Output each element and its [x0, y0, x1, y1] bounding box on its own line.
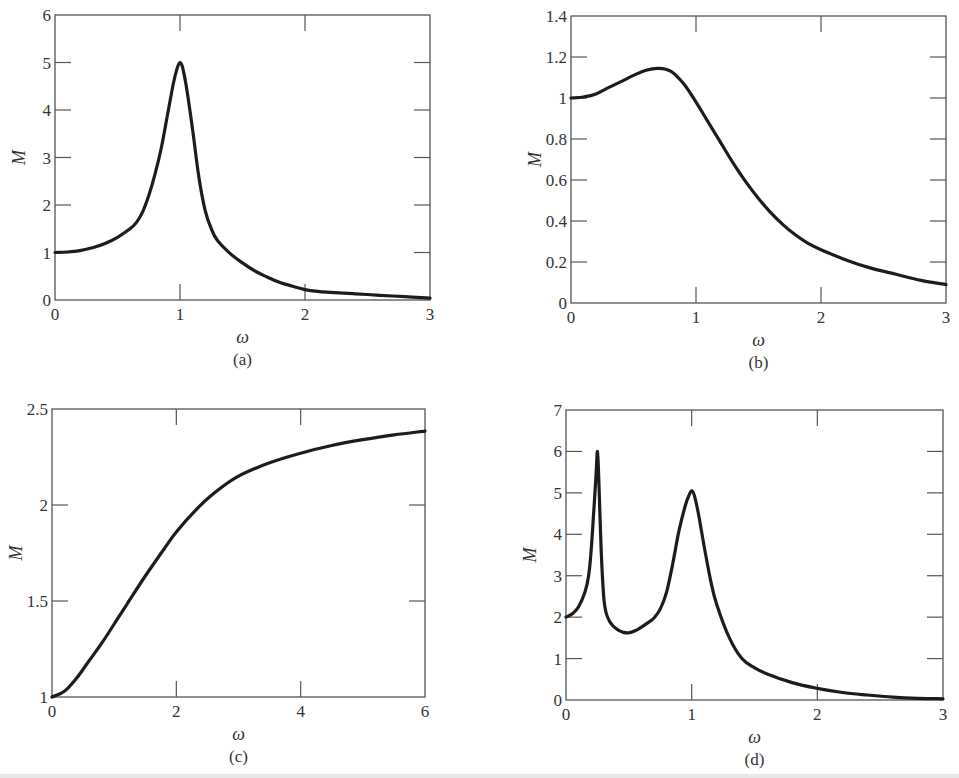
x-tick-label: 3 [939, 705, 948, 724]
cropped-caption-strip [0, 774, 959, 778]
y-tick-label: 6 [554, 442, 563, 461]
y-tick-label: 1 [554, 650, 563, 669]
y-tick-label: 0 [554, 691, 563, 710]
chart-svg-d: 012301234567ωM(d) [0, 0, 959, 778]
y-tick-label: 5 [554, 484, 563, 503]
plot-frame [566, 410, 943, 700]
y-tick-label: 2 [554, 608, 563, 627]
y-tick-label: 4 [554, 525, 563, 544]
x-tick-label: 2 [813, 705, 822, 724]
y-tick-label: 7 [554, 401, 563, 420]
frequency-response-curve [566, 451, 943, 698]
subfigure-label: (d) [745, 750, 765, 769]
y-axis-label: M [520, 547, 540, 564]
x-tick-label: 1 [687, 705, 696, 724]
x-tick-label: 0 [562, 705, 571, 724]
y-tick-label: 3 [554, 567, 563, 586]
x-axis-label: ω [748, 727, 761, 747]
